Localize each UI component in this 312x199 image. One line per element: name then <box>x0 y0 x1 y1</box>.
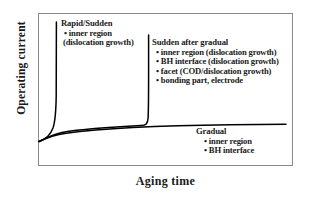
y-axis-label: Operating current <box>15 3 27 133</box>
annotation-sudden-after-gradual-bullet-4: • bonding part, electrode <box>152 76 279 86</box>
annotation-gradual: Gradual • inner region • BH interface <box>196 127 254 156</box>
x-axis-label: Aging time <box>38 174 293 189</box>
annotation-rapid-sudden-bullet-1-continued: (dislocation growth) <box>61 38 134 48</box>
annotation-gradual-bullet-2: • BH interface <box>196 146 254 156</box>
degradation-mode-figure: Operating current Aging time Rapid/Sudde… <box>0 0 312 199</box>
curve-rapid-sudden <box>39 22 56 142</box>
curve-sudden-after-gradual <box>39 35 149 142</box>
curves-plot <box>0 0 312 199</box>
annotation-rapid-sudden: Rapid/Sudden • inner region (dislocation… <box>61 19 134 48</box>
annotation-sudden-after-gradual: Sudden after gradual • inner region (dis… <box>152 38 279 86</box>
